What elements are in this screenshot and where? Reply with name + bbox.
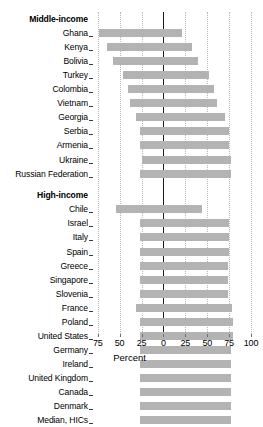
x-tick-neg25: [142, 334, 143, 337]
x-tick-pos75: [229, 334, 230, 337]
bar-canada: [140, 388, 231, 396]
category-tick: [89, 240, 93, 241]
bar-denmark: [140, 402, 231, 410]
category-label-slovenia: Slovenia: [56, 287, 88, 301]
bar-italy: [140, 233, 229, 241]
category-label-ukraine: Ukraine: [59, 153, 88, 167]
bar-bolivia: [113, 57, 198, 65]
x-tick-label-6: 75: [217, 338, 241, 348]
category-label-united-kingdom: United Kingdom: [28, 371, 88, 385]
category-tick: [89, 226, 93, 227]
bar-ukraine: [142, 156, 231, 164]
x-tick-label-7: 100: [239, 338, 263, 348]
x-tick-pos0: [163, 334, 164, 337]
group-label-high-income: High-income: [37, 188, 88, 202]
category-tick: [89, 269, 93, 270]
category-tick: [89, 311, 93, 312]
category-tick: [89, 325, 93, 326]
x-tick-label-1: 50: [108, 338, 132, 348]
bar-singapore: [140, 276, 228, 284]
category-tick: [89, 283, 93, 284]
category-label-singapore: Singapore: [50, 273, 88, 287]
x-axis-title: Percent: [0, 352, 259, 363]
bar-colombia: [128, 85, 214, 93]
category-label-israel: Israel: [68, 216, 88, 230]
category-tick: [89, 120, 93, 121]
category-label-russian-federation: Russian Federation: [15, 167, 88, 181]
bar-armenia: [140, 141, 229, 149]
bar-serbia: [140, 127, 229, 135]
category-tick: [89, 177, 93, 178]
plot-area: [97, 12, 251, 334]
category-label-georgia: Georgia: [58, 110, 88, 124]
category-tick: [89, 134, 93, 135]
bars: [97, 12, 251, 334]
x-tick-label-2: 25: [130, 338, 154, 348]
category-label-united-states: United States: [38, 329, 88, 343]
category-axis: Middle-incomeGhanaKenyaBoliviaTurkeyColo…: [0, 12, 93, 334]
category-label-colombia: Colombia: [52, 82, 88, 96]
bar-turkey: [123, 71, 209, 79]
bar-vietnam: [130, 99, 217, 107]
category-label-canada: Canada: [58, 385, 88, 399]
category-tick: [89, 423, 93, 424]
bar-france: [136, 304, 231, 312]
category-label-vietnam: Vietnam: [57, 96, 88, 110]
category-label-spain: Spain: [67, 245, 88, 259]
category-tick: [89, 92, 93, 93]
x-tick-pos25: [185, 334, 186, 337]
category-tick: [89, 163, 93, 164]
x-tick-label-4: 25: [173, 338, 197, 348]
category-tick: [89, 395, 93, 396]
category-tick: [89, 255, 93, 256]
bar-spain: [140, 248, 229, 256]
bar-kenya: [107, 43, 192, 51]
category-label-greece: Greece: [60, 259, 88, 273]
category-tick: [89, 297, 93, 298]
category-label-chile: Chile: [69, 202, 88, 216]
x-tick-neg50: [120, 334, 121, 337]
x-tick-pos50: [207, 334, 208, 337]
x-tick-label-0: 75: [86, 338, 110, 348]
category-tick: [89, 50, 93, 51]
category-label-france: France: [62, 301, 88, 315]
category-tick: [89, 212, 93, 213]
x-tick-pos100: [251, 334, 252, 337]
category-label-ghana: Ghana: [63, 26, 88, 40]
category-label-bolivia: Bolivia: [63, 54, 88, 68]
bar-slovenia: [140, 290, 228, 298]
bar-georgia: [136, 113, 224, 121]
x-tick-neg75: [98, 334, 99, 337]
category-label-italy: Italy: [73, 230, 88, 244]
x-tick-label-5: 50: [195, 338, 219, 348]
category-tick: [89, 148, 93, 149]
bar-greece: [140, 262, 228, 270]
category-tick: [89, 64, 93, 65]
category-label-serbia: Serbia: [64, 124, 88, 138]
bar-chile: [116, 205, 202, 213]
gridline-pos100: [251, 12, 253, 334]
category-label-median-hics: Median, HICs: [37, 413, 88, 427]
category-tick: [89, 381, 93, 382]
category-tick: [89, 106, 93, 107]
bar-poland: [140, 318, 233, 326]
bar-median-hics: [140, 416, 231, 424]
x-tick-label-3: 0: [151, 338, 175, 348]
category-label-denmark: Denmark: [54, 399, 88, 413]
category-label-kenya: Kenya: [64, 40, 88, 54]
category-tick: [89, 409, 93, 410]
bar-israel: [140, 219, 229, 227]
bar-ghana: [99, 29, 182, 37]
category-tick: [89, 78, 93, 79]
category-label-armenia: Armenia: [57, 138, 88, 152]
group-label-middle-income: Middle-income: [29, 12, 88, 26]
category-label-poland: Poland: [62, 315, 88, 329]
bar-russian-federation: [140, 170, 231, 178]
category-tick: [89, 367, 93, 368]
category-tick: [89, 36, 93, 37]
bar-united-kingdom: [140, 374, 231, 382]
category-label-turkey: Turkey: [63, 68, 88, 82]
